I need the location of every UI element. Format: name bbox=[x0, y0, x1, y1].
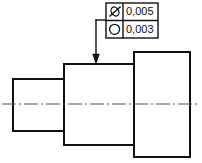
tolerance-value-circularity: 0,003 bbox=[126, 23, 154, 35]
drawing-svg: 0,005 0,003 bbox=[0, 0, 202, 163]
engineering-drawing-canvas: 0,005 0,003 bbox=[0, 0, 202, 163]
leader-arrowhead-icon bbox=[93, 54, 100, 64]
geometric-tolerance-frame[interactable]: 0,005 0,003 bbox=[106, 3, 158, 38]
leader-line bbox=[96, 20, 106, 57]
left-small-cylinder bbox=[13, 79, 64, 131]
tolerance-value-runout: 0,005 bbox=[126, 5, 154, 17]
